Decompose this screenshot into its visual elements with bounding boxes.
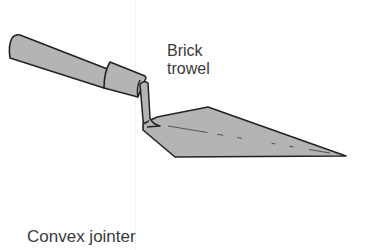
trowel-ferrule [104,62,146,97]
brick-trowel-label-line-2: trowel [167,60,210,78]
convex-jointer-label: Convex jointer [27,228,136,245]
brick-trowel-label-line-1: Brick [167,42,210,60]
brick-trowel-icon [0,0,365,250]
brick-trowel-label: Brick trowel [167,42,210,78]
trowel-blade [143,107,346,157]
tool-diagram: Brick trowel Convex jointer [0,0,365,250]
trowel-handle [9,35,110,88]
